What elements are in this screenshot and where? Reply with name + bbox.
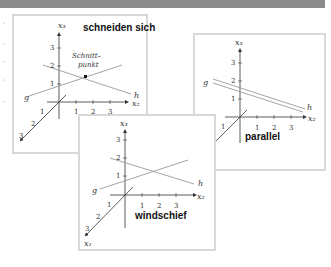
- line-g: [213, 79, 305, 109]
- line-h: [213, 83, 303, 112]
- svg-text:1: 1: [40, 108, 44, 116]
- svg-text:2: 2: [96, 213, 100, 221]
- svg-text:2: 2: [50, 62, 54, 70]
- coordinate-system-skew: x₃ x₂ 1 2 3 1 2 3 1 2 3 g h x₁: [80, 116, 218, 253]
- intersection-point: [84, 75, 87, 78]
- line-label-h: h: [307, 103, 312, 112]
- svg-text:2: 2: [116, 154, 120, 162]
- svg-text:3: 3: [19, 132, 23, 140]
- svg-text:3: 3: [231, 59, 235, 67]
- axis-label-x2: x₂: [132, 99, 140, 108]
- svg-text:1: 1: [221, 123, 225, 131]
- svg-text:2: 2: [31, 120, 35, 128]
- svg-text:1: 1: [107, 201, 111, 209]
- axis-label-x3: x₃: [58, 21, 66, 30]
- top-bar: [0, 0, 325, 8]
- line-g: [29, 65, 122, 96]
- axis-label-x1: x₁: [84, 239, 92, 248]
- edge-marks: [2, 20, 6, 130]
- axis-label-x2: x₂: [197, 192, 205, 201]
- svg-text:1: 1: [231, 95, 235, 103]
- panel-skew: x₃ x₂ 1 2 3 1 2 3 1 2 3 g h x₁ windschie…: [78, 114, 216, 251]
- axis-label-x2: x₂: [308, 114, 316, 123]
- svg-text:1: 1: [140, 202, 144, 210]
- svg-text:1: 1: [116, 172, 120, 180]
- line-label-h: h: [198, 179, 203, 188]
- line-label-g: g: [24, 93, 29, 102]
- svg-text:3: 3: [174, 202, 178, 210]
- line-g: [100, 160, 188, 189]
- axis-label-x3: x₃: [120, 119, 128, 128]
- svg-text:3: 3: [116, 136, 120, 144]
- line-label-g: g: [203, 78, 208, 87]
- svg-text:3: 3: [85, 225, 89, 233]
- caption-parallel: parallel: [245, 131, 280, 142]
- svg-text:3: 3: [50, 44, 54, 52]
- caption-intersecting: schneiden sich: [83, 22, 155, 33]
- svg-text:1: 1: [50, 80, 54, 88]
- annotation-schnittpunkt-1: Schnitt–: [72, 52, 102, 60]
- annotation-schnittpunkt-2: punkt: [78, 61, 99, 69]
- svg-text:3: 3: [289, 124, 293, 132]
- axis-label-x3: x₃: [235, 38, 243, 47]
- line-label-h: h: [134, 91, 139, 100]
- svg-text:2: 2: [231, 77, 235, 85]
- svg-text:2: 2: [157, 202, 161, 210]
- line-label-g: g: [92, 186, 97, 195]
- line-h: [43, 65, 131, 94]
- caption-skew: windschief: [135, 210, 187, 221]
